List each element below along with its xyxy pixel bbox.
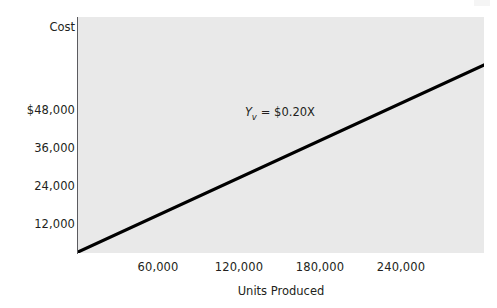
y-tick-label-24000: 24,000 [34,180,75,192]
equation-expression: = $0.20X [261,105,315,119]
equation-annotation: Yv = $0.20X [245,106,315,123]
y-tick-label-12000: 12,000 [34,218,75,230]
x-tick-label-240000: 240,000 [377,261,425,273]
x-tick-label-60000: 60,000 [138,261,179,273]
variable-cost-line [78,65,484,252]
equation-subscript: v [252,112,257,122]
plot-area [78,17,484,253]
x-tick-label-120000: 120,000 [215,261,263,273]
y-axis-title: Cost [49,21,75,33]
plot-svg [78,17,484,253]
equation-symbol: Y [245,105,252,119]
variable-cost-chart: Cost $48,000 36,000 24,000 12,000 60,000… [0,0,497,308]
scan-artifact [474,0,490,6]
y-tick-label-48000: $48,000 [27,104,75,116]
x-axis-title: Units Produced [238,285,325,297]
y-tick-label-36000: 36,000 [34,142,75,154]
x-tick-label-180000: 180,000 [296,261,344,273]
y-axis-line [77,17,78,254]
